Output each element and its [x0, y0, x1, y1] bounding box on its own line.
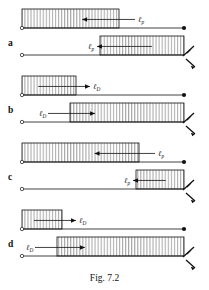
panel-a-row-2-open-terminal: [20, 53, 23, 56]
panel-d-row-2-length-label-subscript: D: [29, 247, 34, 253]
panel-b-row-2-break-zigzag: [183, 113, 195, 134]
panel-b-row-2-length-label: ℓD: [39, 109, 47, 119]
panel-a-row-2-length-label-subscript: p: [91, 46, 95, 52]
panel-a-row-1-length-label: ℓp: [138, 15, 145, 25]
panel-a-row-2-block-outline: [100, 36, 184, 55]
panel-a-row-1-filled-terminal: [182, 26, 186, 30]
panel-b-row-1-dimension-arrowhead: [85, 84, 90, 88]
panel-b-row-1-open-terminal: [20, 93, 23, 96]
panel-c-row-1-open-terminal: [20, 160, 23, 163]
panel-letter-c: c: [8, 172, 12, 182]
panel-b-row-1-length-label: ℓD: [93, 82, 101, 92]
panel-a-row-1-open-terminal: [20, 26, 23, 29]
panel-b-row-2-open-terminal: [20, 120, 23, 123]
panel-d-row-1-length-label-subscript: D: [82, 220, 87, 226]
panel-d-row-1-block-outline: [22, 210, 62, 229]
figure-container: ℓpℓpℓDℓDℓpℓpℓDℓD a b c d Fig. 7.2: [0, 0, 209, 290]
panel-d-row-1-filled-terminal: [182, 227, 186, 231]
panel-letter-b: b: [8, 105, 13, 115]
panel-d-row-1-dimension-arrowhead: [71, 218, 76, 222]
panel-c-row-1-filled-terminal: [182, 160, 186, 164]
panel-d-row-1-length-label: ℓD: [79, 216, 87, 226]
panel-a-row-2-dimension-arrowhead: [97, 44, 102, 48]
panel-a-row-1-length-label-subscript: p: [141, 19, 145, 25]
panel-d-row-2-length-label: ℓD: [26, 243, 34, 253]
panel-c-row-2-open-terminal: [20, 187, 23, 190]
panel-c-row-1-length-label-subscript: p: [161, 153, 165, 159]
panel-a-row-2-length-label: ℓp: [88, 42, 95, 52]
panel-b-row-1-filled-terminal: [182, 93, 186, 97]
panel-b-row-1-block-outline: [22, 76, 76, 95]
panel-letter-d: d: [8, 239, 14, 249]
panel-letter-a: a: [8, 38, 13, 48]
panel-c-row-2-block-outline: [136, 170, 184, 189]
panel-c-row-2-dimension-arrowhead: [133, 178, 138, 182]
panel-d-row-2-open-terminal: [20, 254, 23, 257]
panel-c-row-2-length-label-subscript: p: [127, 180, 131, 186]
panel-c-row-2-length-label: ℓp: [124, 176, 131, 186]
panel-b-row-2-length-label-subscript: D: [42, 113, 47, 119]
figure-caption: Fig. 7.2: [90, 273, 120, 283]
panel-d-row-2-break-zigzag: [183, 247, 195, 268]
panel-c-row-1-block-outline: [22, 143, 139, 162]
panel-b-row-1-length-label-subscript: D: [96, 86, 101, 92]
panel-b-row-2-block-outline: [70, 103, 184, 122]
panel-a-row-2-break-zigzag: [183, 46, 195, 67]
panel-c-row-2-break-zigzag: [183, 180, 195, 201]
panel-d-row-2-block-outline: [57, 237, 184, 256]
figure-diagram: ℓpℓpℓDℓDℓpℓpℓDℓD a b c d Fig. 7.2: [0, 0, 209, 290]
panel-a-row-1-block-outline: [22, 9, 119, 28]
panel-d-row-1-open-terminal: [20, 227, 23, 230]
panel-c-row-1-length-label: ℓp: [158, 149, 165, 159]
